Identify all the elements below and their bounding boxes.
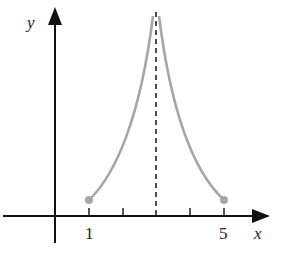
function-graph <box>0 0 284 266</box>
y-axis-arrow-icon <box>48 7 62 25</box>
right-endpoint-dot <box>220 196 228 204</box>
left-branch-curve <box>89 16 153 200</box>
right-branch-curve <box>159 16 224 200</box>
tick-label-5: 5 <box>219 225 228 242</box>
x-axis-arrow-icon <box>252 209 270 223</box>
y-axis-label: y <box>27 14 35 31</box>
x-axis-label: x <box>254 225 262 242</box>
left-endpoint-dot <box>85 196 93 204</box>
tick-label-1: 1 <box>85 225 94 242</box>
